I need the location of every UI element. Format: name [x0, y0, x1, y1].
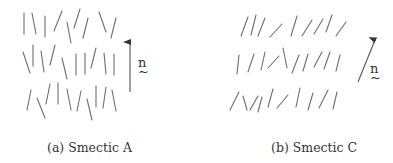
molecule-line: [303, 54, 308, 71]
molecule-line: [103, 87, 106, 108]
molecule-line: [37, 98, 45, 118]
molecule-line: [308, 93, 313, 110]
molecule-line: [230, 92, 239, 110]
molecule-line: [258, 18, 265, 36]
molecule-line: [62, 58, 67, 79]
molecule-line: [268, 89, 273, 107]
molecule-line: [283, 48, 287, 68]
director-tilde: ~: [370, 70, 381, 85]
molecule-line: [32, 13, 36, 34]
molecule-line: [326, 15, 332, 32]
molecule-line: [104, 53, 106, 74]
molecule-line: [324, 52, 330, 69]
molecule-line: [91, 48, 96, 68]
caption-smectic-a: (a) Smectic A: [47, 140, 132, 155]
molecule-line: [46, 84, 50, 104]
molecule-line: [261, 52, 265, 70]
molecule-line: [87, 99, 92, 120]
molecule-line: [54, 11, 62, 31]
molecule-line: [77, 91, 81, 111]
molecule-line: [83, 18, 88, 38]
molecule-line: [314, 52, 322, 67]
molecule-line: [248, 54, 254, 72]
molecule-line: [237, 55, 239, 74]
molecule-line: [258, 97, 262, 112]
molecule-line: [41, 51, 44, 72]
molecule-line: [111, 18, 116, 38]
molecule-line: [250, 96, 258, 110]
molecule-line: [99, 12, 106, 32]
director-tilde: ~: [138, 64, 149, 79]
molecule-line: [314, 19, 323, 34]
caption-smectic-c: (b) Smectic C: [271, 140, 357, 155]
molecule-line: [291, 16, 297, 36]
molecule-line: [112, 90, 116, 111]
molecule-line: [67, 89, 71, 110]
molecule-line: [23, 52, 30, 73]
molecule-line: [333, 92, 337, 109]
molecule-line: [336, 55, 340, 71]
smectic-phases-figure: n~ n~ (a) Smectic A (b) Smectic C: [0, 0, 393, 163]
molecule-line: [277, 95, 288, 108]
molecule-line: [27, 90, 31, 110]
molecule-line: [270, 24, 282, 37]
molecule-line: [74, 9, 80, 28]
figure-canvas: n~ n~: [0, 0, 393, 163]
molecule-line: [243, 96, 247, 110]
molecule-line: [50, 45, 55, 65]
molecule-line: [302, 20, 312, 36]
molecule-line: [296, 88, 300, 107]
molecule-line: [67, 22, 71, 43]
panel-smectic-a: n~: [23, 9, 149, 120]
molecule-line: [241, 17, 248, 36]
panel-smectic-c: n~: [230, 15, 381, 112]
molecule-line: [292, 55, 299, 73]
molecule-line: [251, 15, 256, 35]
molecule-line: [268, 56, 279, 68]
molecule-line: [336, 22, 346, 36]
molecule-line: [319, 90, 328, 108]
